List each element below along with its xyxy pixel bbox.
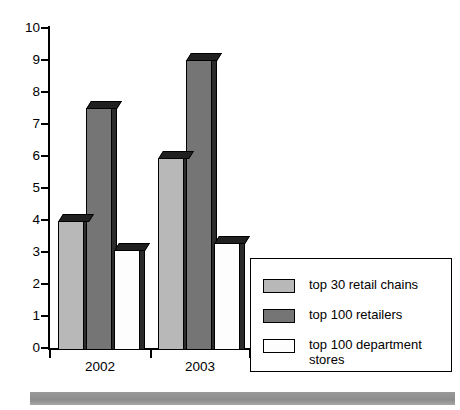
legend-swatch-retailers	[263, 309, 295, 323]
bar-2002-retail-chains	[58, 221, 84, 350]
x-tick-mid	[150, 350, 152, 358]
y-tick-label-8: 8	[14, 85, 40, 99]
x-axis-label-2003: 2003	[170, 360, 230, 375]
bar-2003-retailers	[186, 60, 212, 350]
y-tick-7	[41, 123, 49, 125]
bar-2002-department-stores	[114, 250, 140, 350]
y-tick-4	[41, 219, 49, 221]
y-tick-8	[41, 91, 49, 93]
legend-label-retail-chains: top 30 retail chains	[309, 277, 418, 292]
y-tick-5	[41, 187, 49, 189]
bar-2003-department-stores-top	[214, 236, 250, 244]
bar-2002-department-stores-top	[114, 243, 150, 251]
bar-2003-department-stores	[214, 243, 240, 350]
y-tick-label-1: 1	[14, 309, 40, 323]
legend-label-department-stores: top 100 department stores	[309, 337, 429, 367]
bottom-strip	[30, 392, 455, 405]
y-tick-3	[41, 251, 49, 253]
y-tick-1	[41, 315, 49, 317]
y-tick-label-6: 6	[14, 149, 40, 163]
y-tick-label-5: 5	[14, 181, 40, 195]
y-tick-10	[41, 27, 49, 29]
legend-swatch-retail-chains	[263, 279, 295, 293]
legend-item-retail-chains: top 30 retail chains	[263, 277, 418, 293]
bar-2002-retailers-top	[86, 101, 122, 109]
bar-2003-retail-chains-top	[158, 151, 194, 159]
y-tick-label-10: 10	[14, 21, 40, 35]
y-tick-label-7: 7	[14, 117, 40, 131]
bar-2003-retailers-top	[186, 53, 222, 61]
y-tick-6	[41, 155, 49, 157]
x-axis-label-2002: 2002	[70, 360, 130, 375]
y-tick-9	[41, 59, 49, 61]
legend-item-department-stores: top 100 department stores	[263, 337, 429, 367]
y-tick-label-2: 2	[14, 277, 40, 291]
legend-label-retailers: top 100 retailers	[309, 307, 402, 322]
legend-swatch-department-stores	[263, 339, 295, 353]
y-tick-0	[41, 347, 49, 349]
bar-2002-retail-chains-top	[58, 214, 94, 222]
bar-2002-retailers	[86, 108, 112, 350]
legend-item-retailers: top 100 retailers	[263, 307, 402, 323]
bar-chart: 10 9 8 7 6 5 4 3 2 1 0 2002 2003	[0, 0, 460, 410]
y-tick-2	[41, 283, 49, 285]
x-tick-start	[49, 350, 51, 358]
y-tick-label-9: 9	[14, 53, 40, 67]
bar-2003-retail-chains	[158, 158, 184, 350]
y-tick-label-0: 0	[14, 341, 40, 355]
y-tick-label-3: 3	[14, 245, 40, 259]
y-tick-label-4: 4	[14, 213, 40, 227]
chart-legend: top 30 retail chains top 100 retailers t…	[250, 258, 452, 372]
